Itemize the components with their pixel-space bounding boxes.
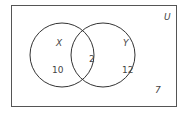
universe-label: U <box>164 12 171 22</box>
set-x-circle <box>30 23 94 87</box>
intersection-count: 2 <box>89 54 95 64</box>
set-y-circle <box>71 23 135 87</box>
x-only-count: 10 <box>52 65 64 75</box>
set-x-label: X <box>55 38 63 48</box>
set-y-label: Y <box>123 38 130 48</box>
outside-count: 7 <box>155 85 161 95</box>
venn-diagram: U X Y 10 2 12 7 <box>0 0 184 114</box>
y-only-count: 12 <box>122 65 133 75</box>
